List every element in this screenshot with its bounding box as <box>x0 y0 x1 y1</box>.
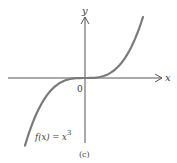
function-label: f(x) = x3 <box>34 129 71 142</box>
y-axis-label: y <box>81 5 88 16</box>
function-label-base: f(x) = x <box>34 132 67 142</box>
cubic-function-graph: y x 0 f(x) = x3 (c) <box>0 0 177 163</box>
function-label-exponent: 3 <box>67 129 71 137</box>
origin-label: 0 <box>77 84 83 94</box>
figure-caption: (c) <box>79 150 90 159</box>
cubic-curve <box>25 17 143 146</box>
x-axis-label: x <box>165 72 171 83</box>
